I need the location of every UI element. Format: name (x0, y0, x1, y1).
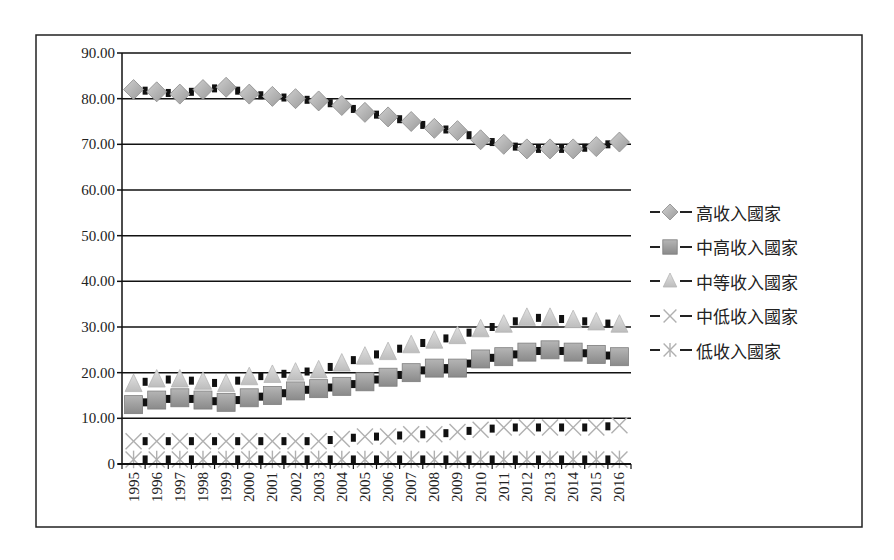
x-tick-label: 1998 (195, 472, 211, 502)
x-tick-label: 2005 (357, 472, 373, 502)
line-segment (559, 455, 564, 463)
line-segment (189, 455, 194, 463)
x-tick-label: 2007 (403, 472, 419, 503)
data-point (311, 451, 327, 469)
x-tick-label: 2013 (542, 472, 558, 502)
x-tick-label: 1996 (149, 472, 165, 503)
line-segment (420, 339, 425, 347)
legend-item: 高收入國家 (648, 195, 798, 230)
data-point (125, 374, 142, 392)
line-segment (166, 376, 171, 384)
y-tick-label: 50.00 (81, 228, 115, 244)
line-segment (443, 429, 448, 437)
line-segment (235, 437, 240, 445)
x-tick-label: 2000 (241, 472, 257, 502)
line-segment (397, 455, 402, 463)
data-point (288, 433, 304, 449)
data-point (241, 451, 257, 469)
legend-label: 低收入國家 (696, 338, 781, 363)
line-segment (443, 455, 448, 463)
data-point (403, 426, 419, 442)
data-point (542, 451, 558, 469)
data-point (263, 387, 281, 405)
legend-item: 中等收入國家 (648, 264, 798, 299)
line-segment (166, 89, 171, 97)
line-segment (582, 455, 587, 463)
data-point (401, 112, 421, 132)
y-tick-label: 90.00 (81, 45, 115, 61)
data-point (241, 367, 258, 385)
data-point (587, 345, 605, 363)
legend-label: 中等收入國家 (696, 269, 798, 294)
data-point (588, 312, 605, 330)
data-point (126, 451, 142, 469)
data-point (334, 451, 350, 469)
y-tick-label: 80.00 (81, 91, 115, 107)
data-point (380, 342, 397, 360)
data-point (473, 422, 489, 438)
data-point (449, 424, 465, 440)
line-segment (305, 368, 310, 376)
data-point (195, 433, 211, 449)
data-point (262, 86, 282, 106)
data-point (471, 130, 491, 150)
line-segment (166, 395, 171, 403)
line-segment (328, 363, 333, 371)
data-point (588, 419, 604, 435)
data-point (588, 451, 604, 469)
line-segment (536, 347, 541, 355)
line-segment (281, 437, 286, 445)
y-tick-label: 0 (108, 456, 116, 472)
line-segment (143, 398, 148, 406)
legend-item: 中低收入國家 (648, 299, 798, 334)
line-segment (305, 96, 310, 104)
data-point (357, 429, 373, 445)
line-segment (235, 396, 240, 404)
line-segment (351, 455, 356, 463)
data-point (402, 364, 420, 382)
data-point (542, 308, 559, 326)
data-point (449, 326, 466, 344)
legend-square-icon (648, 235, 694, 259)
data-point (403, 451, 419, 469)
data-point (541, 341, 559, 359)
line-segment (582, 144, 587, 152)
data-point (519, 419, 535, 435)
line-segment (212, 379, 217, 387)
line-segment (305, 437, 310, 445)
line-segment (467, 360, 472, 368)
line-segment (258, 372, 263, 380)
data-point (309, 91, 329, 111)
line-segment (235, 377, 240, 385)
line-segment (143, 378, 148, 386)
line-segment (328, 455, 333, 463)
data-point (380, 429, 396, 445)
x-tick-label: 2016 (611, 472, 627, 503)
series-x (126, 417, 628, 449)
y-tick-label: 40.00 (81, 273, 115, 289)
data-point (378, 107, 398, 127)
data-point (288, 451, 304, 469)
line-segment (166, 437, 171, 445)
data-point (448, 359, 466, 377)
line-segment (420, 366, 425, 374)
data-point (356, 347, 373, 365)
data-point (426, 451, 442, 469)
line-segment (397, 371, 402, 379)
line-segment (351, 356, 356, 364)
line-segment (305, 386, 310, 394)
line-segment (467, 329, 472, 337)
line-segment (536, 423, 541, 431)
line-segment (374, 433, 379, 441)
y-tick-label: 20.00 (81, 365, 115, 381)
line-segment (305, 455, 310, 463)
data-point (609, 132, 629, 152)
line-segment (281, 370, 286, 378)
line-segment (490, 455, 495, 463)
data-point (519, 451, 535, 469)
line-segment (490, 323, 495, 331)
data-point (610, 348, 628, 366)
line-segment (467, 455, 472, 463)
line-segment (513, 350, 518, 358)
line-segment (166, 455, 171, 463)
